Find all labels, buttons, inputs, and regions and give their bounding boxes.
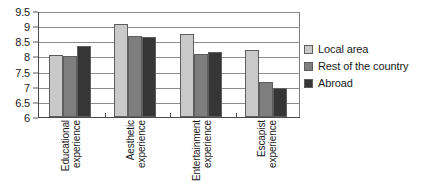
legend-item[interactable]: Rest of the country [304,59,426,74]
legend-swatch-icon [304,45,313,54]
legend-swatch-icon [304,62,313,71]
legend-item-label: Abroad [318,78,353,89]
chart-legend: Local areaRest of the countryAbroad [304,42,426,93]
legend-item[interactable]: Local area [304,42,426,57]
bar-group [105,12,171,117]
x-axis-category-label: Entertainmentexperience [180,120,224,192]
bar[interactable] [77,46,91,117]
bar-chart: 66.577.588.599.5 EducationalexperienceAe… [0,0,428,194]
plot-area [38,12,300,118]
x-axis-category-label: Aestheticexperience [114,120,158,192]
x-axis-category-label-line: Aesthetic [125,120,136,160]
x-axis-tick-mark [170,113,171,117]
bar[interactable] [245,50,259,117]
bar[interactable] [194,54,208,117]
bar-group [170,12,236,117]
x-axis-tick-mark [105,113,106,117]
x-axis-category-label-line: experience [71,120,82,168]
bar[interactable] [259,82,273,117]
y-axis-tick-label: 9 [24,22,30,33]
x-axis-category-label-line: Educational [60,120,71,171]
bar-group [236,12,302,117]
x-axis-category-label: Escapistexperience [245,120,289,192]
y-axis-tick-label: 7 [24,82,30,93]
x-axis-category-label-line: Escapist [256,120,267,157]
bar[interactable] [142,37,156,117]
x-axis: EducationalexperienceAestheticexperience… [38,120,300,194]
bar[interactable] [114,24,128,117]
legend-swatch-icon [304,79,313,88]
y-axis-tick-label: 6.5 [15,97,30,108]
bar[interactable] [208,52,222,117]
x-axis-tick-mark [236,113,237,117]
bar[interactable] [128,36,142,117]
y-axis-tick-label: 8 [24,52,30,63]
bar[interactable] [63,56,77,117]
legend-item[interactable]: Abroad [304,76,426,91]
y-axis-tick-label: 7.5 [15,67,30,78]
y-axis: 66.577.588.599.5 [0,12,34,118]
y-axis-tick-label: 6 [24,113,30,124]
x-axis-category-label-line: experience [136,120,147,168]
y-axis-tick-label: 9.5 [15,7,30,18]
x-axis-category-label-line: Entertainment [191,120,202,181]
y-axis-tick-label: 8.5 [15,37,30,48]
bar-group [39,12,105,117]
x-axis-category-label-line: experience [202,120,213,168]
x-axis-category-label-line: experience [267,120,278,168]
x-axis-category-label: Educationalexperience [49,120,93,192]
legend-item-label: Rest of the country [318,61,408,72]
bar[interactable] [273,88,287,117]
legend-item-label: Local area [318,44,368,55]
bar[interactable] [49,55,63,117]
bar[interactable] [180,34,194,117]
